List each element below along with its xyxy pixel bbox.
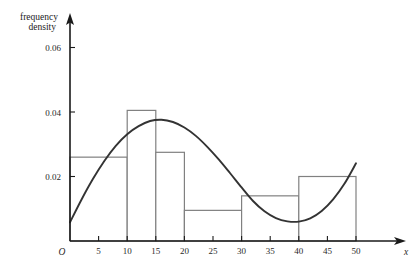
x-tick-label: 15 [151,246,161,256]
x-tick-label: 35 [266,246,276,256]
y-tick-label: 0.02 [45,172,61,182]
x-tick-label: 40 [294,246,304,256]
x-tick-label: 20 [180,246,190,256]
histogram-bar [242,196,299,241]
x-tick-label: 5 [96,246,101,256]
frequency-density-chart: 5101520253035404550 0.020.040.06 frequen… [0,0,417,270]
chart-canvas: 5101520253035404550 0.020.040.06 frequen… [0,0,417,270]
histogram-bars [70,110,356,241]
y-axis-label-line2: density [29,22,57,32]
y-axis-tick-labels: 0.020.040.06 [45,43,61,182]
x-tick-label: 50 [352,246,362,256]
histogram-bar [156,152,185,241]
x-axis-tick-labels: 5101520253035404550 [96,246,361,256]
x-tick-label: 45 [323,246,333,256]
y-tick-label: 0.04 [45,108,61,118]
histogram-bar [299,177,356,242]
x-tick-label: 10 [123,246,133,256]
y-axis-label-line1: frequency [20,12,58,22]
y-tick-label: 0.06 [45,43,61,53]
x-axis-label: x [403,247,409,257]
x-tick-label: 30 [237,246,247,256]
x-tick-label: 25 [209,246,219,256]
origin-label: O [59,247,66,257]
